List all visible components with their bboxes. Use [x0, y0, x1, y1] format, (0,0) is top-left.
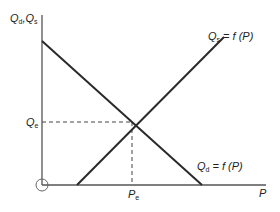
equilibrium-price-label: Pe — [128, 188, 139, 201]
demand-curve — [42, 41, 202, 185]
equilibrium-quantity-label: Qe — [26, 116, 39, 129]
y-axis-label: Qd,Qs — [10, 12, 38, 25]
supply-demand-diagram: Qd,Qs Qs = f (P) Qd = f (P) Qe Pe P — [0, 0, 280, 212]
x-axis-label: P — [259, 187, 267, 199]
demand-curve-label: Qd = f (P) — [197, 160, 243, 173]
supply-curve-label: Qs = f (P) — [208, 30, 254, 43]
